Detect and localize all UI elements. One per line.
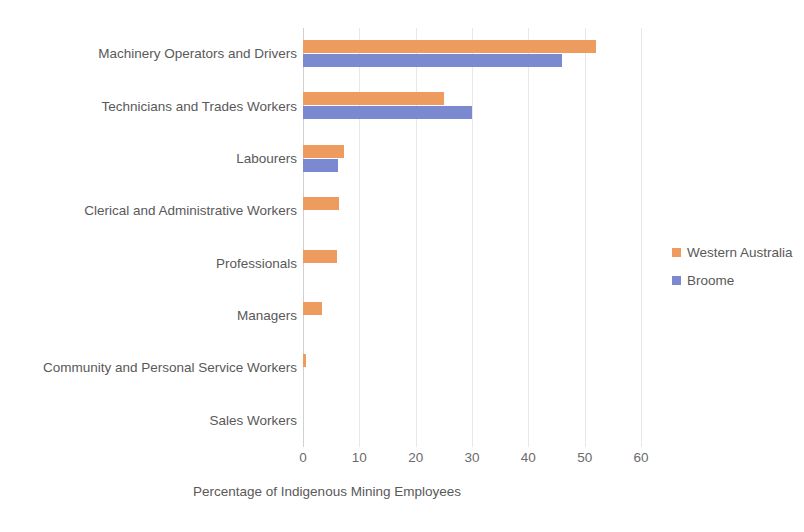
x-tick-label: 20 [408,450,423,465]
x-axis-ticks: 0102030405060 [303,450,641,472]
category-label: Sales Workers [7,413,297,429]
bar-broome [303,106,472,119]
legend-label: Broome [687,273,734,288]
category-label: Professionals [7,256,297,272]
legend-swatch-icon [672,276,681,285]
x-tick-label: 0 [299,450,307,465]
bar-group-row [303,342,641,394]
bar-group-row [303,28,641,80]
bar-chart: Machinery Operators and DriversTechnicia… [0,0,804,532]
plot-area [303,28,641,447]
x-tick-label: 30 [464,450,479,465]
legend-swatch-icon [672,248,681,257]
legend-item[interactable]: Broome [672,266,804,294]
bar-group-row [303,290,641,342]
bar-western-australia [303,250,337,263]
bar-group-row [303,395,641,447]
bar-western-australia [303,40,596,53]
chart-legend: Western AustraliaBroome [672,238,804,294]
category-label: Managers [7,308,297,324]
bar-group-row [303,185,641,237]
x-axis-title: Percentage of Indigenous Mining Employee… [0,484,804,499]
bar-western-australia [303,197,339,210]
x-tick-label: 40 [521,450,536,465]
category-label: Machinery Operators and Drivers [7,46,297,62]
bar-western-australia [303,354,306,367]
bar-group-row [303,238,641,290]
category-label: Community and Personal Service Workers [7,360,297,376]
gridline [641,28,642,447]
x-axis-title-text: Percentage of Indigenous Mining Employee… [193,484,461,499]
category-label: Labourers [7,151,297,167]
category-label: Clerical and Administrative Workers [7,203,297,219]
category-label: Technicians and Trades Workers [7,99,297,115]
bar-group-row [303,133,641,185]
bar-western-australia [303,145,344,158]
x-tick-label: 60 [633,450,648,465]
bar-broome [303,159,338,172]
bar-western-australia [303,92,444,105]
bar-western-australia [303,302,322,315]
x-tick-label: 50 [577,450,592,465]
category-axis-labels: Machinery Operators and DriversTechnicia… [0,28,297,447]
legend-item[interactable]: Western Australia [672,238,804,266]
x-tick-label: 10 [352,450,367,465]
bar-broome [303,54,562,67]
legend-label: Western Australia [687,245,793,260]
bar-group-row [303,80,641,132]
